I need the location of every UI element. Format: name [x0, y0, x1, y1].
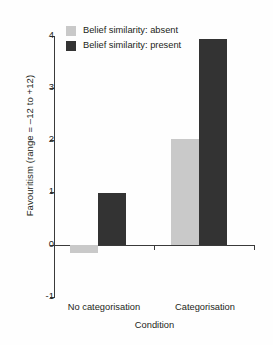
- x-tick-right-edge: [254, 245, 255, 250]
- bar-categorisation-present: [199, 39, 227, 245]
- legend-item-absent: Belief similarity: absent: [66, 24, 181, 38]
- y-tick-label-2: 2: [8, 134, 54, 144]
- x-axis-title: Condition: [54, 320, 255, 330]
- bar-categorisation-absent: [171, 139, 199, 245]
- legend-swatch-present-icon: [66, 41, 76, 51]
- y-tick-label-neg1: -1: [8, 291, 54, 301]
- x-tick-group-divider: [154, 245, 155, 250]
- y-tick-label-1: 1: [8, 186, 54, 196]
- bar-no-categorisation-present: [98, 193, 126, 245]
- y-axis-line: [54, 36, 55, 298]
- legend-item-present: Belief similarity: present: [66, 39, 181, 53]
- bar-no-categorisation-absent: [70, 245, 98, 253]
- x-category-label-categorisation: Categorisation: [155, 302, 255, 312]
- y-tick-label-0: 0: [8, 239, 54, 249]
- x-category-label-no-categorisation: No categorisation: [54, 302, 154, 312]
- legend-label-absent: Belief similarity: absent: [83, 24, 178, 38]
- legend-swatch-absent-icon: [66, 26, 76, 36]
- y-tick-label-4: 4: [8, 30, 54, 40]
- y-axis-ticks: 4 3 2 1 0 -1: [0, 0, 54, 345]
- y-tick-label-3: 3: [8, 82, 54, 92]
- legend: Belief similarity: absent Belief similar…: [66, 24, 181, 54]
- bar-chart: Favouritism (range = –12 to +12) 4 3 2 1…: [0, 0, 273, 345]
- legend-label-present: Belief similarity: present: [83, 39, 181, 53]
- x-tick-left-edge: [54, 245, 55, 250]
